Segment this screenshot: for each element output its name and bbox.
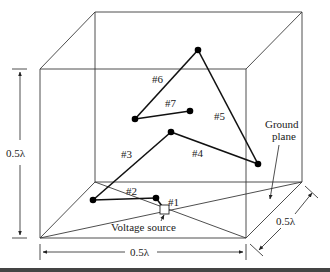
label-wire-4: #4 [192, 147, 204, 159]
wire-7 [135, 111, 190, 119]
wire-4 [171, 132, 258, 164]
label-wire-7: #7 [165, 97, 177, 109]
label-wire-5: #5 [214, 110, 226, 122]
depth-label: 0.5λ [276, 215, 296, 227]
ground-plane-label-line1: Ground [265, 118, 299, 130]
antenna-wires [93, 50, 258, 210]
width-label: 0.5λ [130, 246, 150, 258]
label-wire-6: #6 [152, 73, 164, 85]
voltage-source-label: Voltage source [111, 221, 176, 233]
antenna-diagram: #1 #2 #3 #4 #5 #6 #7 Voltage source Grou… [0, 0, 330, 272]
wire-5 [198, 50, 258, 164]
ground-plane-arrow [270, 145, 279, 199]
wire-2 [93, 198, 156, 200]
label-wire-2: #2 [126, 185, 137, 197]
label-wire-3: #3 [121, 148, 133, 160]
height-label: 0.5λ [6, 147, 26, 159]
label-wire-1: #1 [168, 196, 179, 208]
ground-plane-label-line2: plane [272, 130, 296, 142]
bottom-rule [0, 268, 330, 272]
